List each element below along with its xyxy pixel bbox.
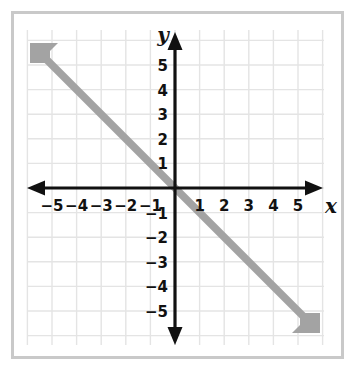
x-tick-label: 5: [293, 197, 303, 215]
y-tick-label: −5: [145, 303, 168, 321]
x-axis-arrow-left: [27, 181, 45, 196]
x-tick-label: −3: [90, 197, 113, 215]
y-tick-label: 4: [158, 82, 168, 100]
y-tick-label: 1: [158, 155, 168, 173]
x-axis-arrow-right: [305, 181, 323, 196]
y-tick-label: −4: [145, 278, 168, 296]
x-tick-label: 4: [268, 197, 278, 215]
y-tick-label: 3: [158, 106, 168, 124]
x-tick-label: −5: [40, 197, 63, 215]
y-tick-label: 5: [158, 57, 168, 75]
y-tick-label: −3: [145, 254, 168, 272]
y-tick-label: 2: [158, 131, 168, 149]
line-arrow-lower-right: [292, 313, 320, 333]
graph-figure: −5 −4 −3 −2 −1 1 2 3 4 5 5 4 3 2 1 −1 −2…: [0, 0, 355, 370]
x-tick-label: 3: [244, 197, 254, 215]
x-tick-label: −2: [114, 197, 137, 215]
y-axis-label: y: [156, 23, 170, 47]
x-axis-label: x: [324, 194, 338, 218]
coordinate-plane: −5 −4 −3 −2 −1 1 2 3 4 5 5 4 3 2 1 −1 −2…: [0, 0, 355, 370]
x-tick-label: −4: [65, 197, 88, 215]
x-tick-label: 2: [219, 197, 229, 215]
line-arrow-upper-left: [30, 43, 58, 63]
y-tick-label: −1: [145, 205, 168, 223]
y-tick-label: −2: [145, 229, 168, 247]
x-tick-label: 1: [194, 197, 204, 215]
